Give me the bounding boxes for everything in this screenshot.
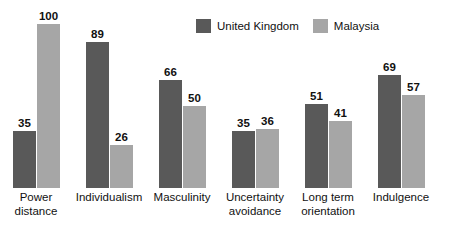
bar-value-label: 41 xyxy=(323,107,358,119)
bar-column: 89 xyxy=(86,0,109,188)
bar-column: 51 xyxy=(305,0,328,188)
bar-uk[interactable] xyxy=(13,131,36,188)
bar-column: 41 xyxy=(329,0,352,188)
bar-value-label: 26 xyxy=(104,131,139,143)
bar-group: 35100 xyxy=(13,0,60,188)
bar-value-label: 36 xyxy=(250,115,285,127)
bar-malaysia[interactable] xyxy=(329,121,352,188)
grouped-bar-chart: United Kingdom Malaysia 3510089266650353… xyxy=(0,0,471,228)
bar-uk[interactable] xyxy=(232,131,255,188)
bar-group: 6957 xyxy=(378,0,425,188)
bar-malaysia[interactable] xyxy=(110,145,133,188)
bar-column: 50 xyxy=(183,0,206,188)
bar-malaysia[interactable] xyxy=(37,24,60,188)
bar-group: 8926 xyxy=(86,0,133,188)
category-label: Indulgence xyxy=(358,190,444,204)
bar-column: 100 xyxy=(37,0,60,188)
bar-value-label: 50 xyxy=(177,92,212,104)
bar-column: 26 xyxy=(110,0,133,188)
bar-group: 5141 xyxy=(305,0,352,188)
bar-value-label: 57 xyxy=(396,81,431,93)
bar-column: 36 xyxy=(256,0,279,188)
bar-column: 57 xyxy=(402,0,425,188)
bar-malaysia[interactable] xyxy=(256,129,279,188)
bar-uk[interactable] xyxy=(86,42,109,188)
bar-column: 69 xyxy=(378,0,401,188)
bar-column: 35 xyxy=(13,0,36,188)
bar-group: 6650 xyxy=(159,0,206,188)
bar-group: 3536 xyxy=(232,0,279,188)
plot-area: 3510089266650353651416957 xyxy=(0,0,471,188)
bar-malaysia[interactable] xyxy=(183,106,206,188)
bar-value-label: 100 xyxy=(31,10,66,22)
bar-column: 35 xyxy=(232,0,255,188)
category-axis-labels: PowerdistanceIndividualismMasculinityUnc… xyxy=(0,190,471,228)
bar-malaysia[interactable] xyxy=(402,95,425,188)
